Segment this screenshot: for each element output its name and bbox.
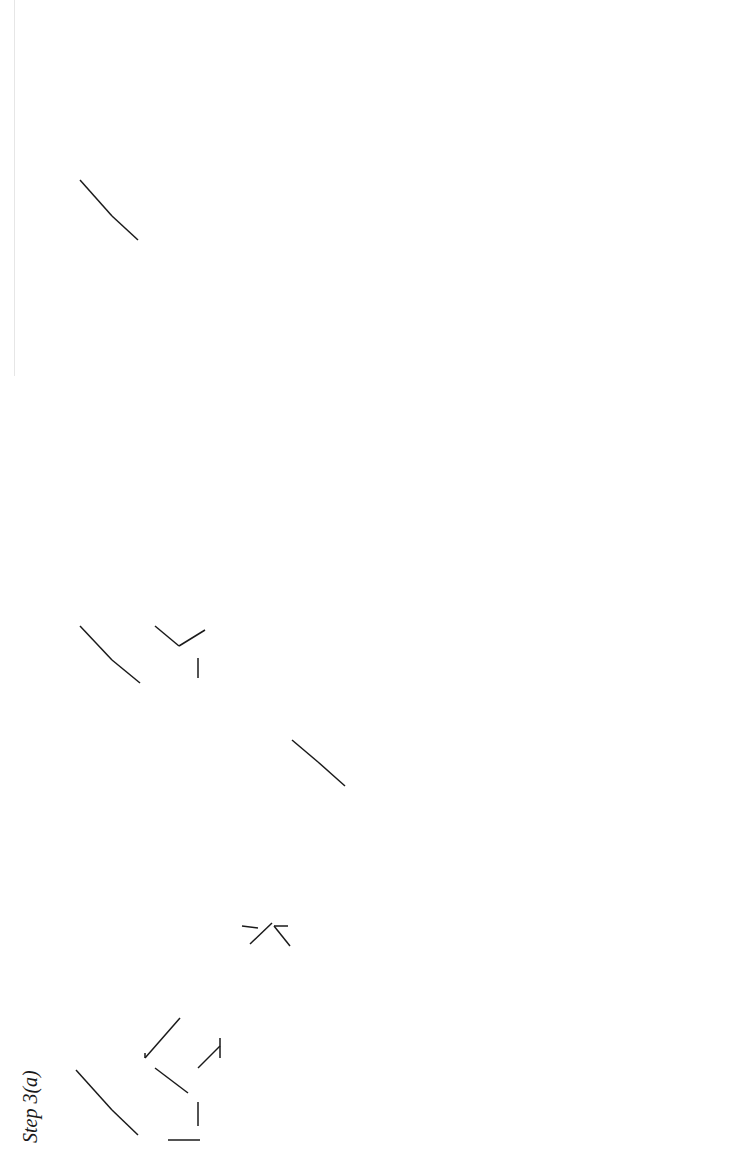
rotated-page: Step 3(a) [0, 0, 748, 1158]
tree-branches [0, 0, 748, 1158]
step-3a-label: Step 3(a) [19, 1070, 42, 1143]
branch [112, 1110, 138, 1135]
